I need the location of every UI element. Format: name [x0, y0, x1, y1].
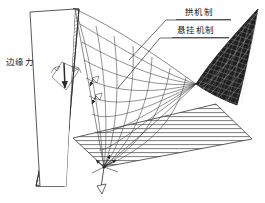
reaction-arrow: [97, 184, 106, 194]
ground-plane: [73, 104, 252, 167]
label-arch-mechanism: 拱机制: [185, 8, 213, 17]
label-suspension-mechanism: 悬挂机制: [177, 26, 215, 35]
force-symbol-tertiary: [92, 93, 102, 104]
structural-diagram-svg: [0, 0, 265, 203]
wall-front-panel: [30, 9, 75, 186]
dark-mesh-surface: [196, 9, 258, 105]
diagram-canvas: 边缘力 拱机制 悬挂机制: [0, 0, 265, 203]
label-edge-force: 边缘力: [6, 58, 34, 67]
force-symbol-secondary: [90, 76, 99, 86]
